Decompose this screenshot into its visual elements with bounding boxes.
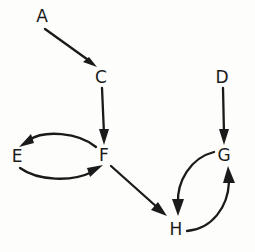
edge-g-to-h-arrowhead — [172, 199, 184, 216]
edge-e-to-f — [20, 165, 103, 179]
edge-d-to-g — [219, 88, 229, 145]
edge-c-to-f-line — [102, 88, 104, 134]
edge-g-to-h-curve — [178, 152, 214, 203]
graph-svg: A C D E F G H — [0, 0, 255, 252]
edge-f-to-h — [111, 166, 167, 216]
node-label-h: H — [170, 219, 183, 239]
edge-h-to-g-curve — [187, 182, 229, 231]
edge-h-to-g-arrowhead — [223, 166, 235, 183]
node-label-e: E — [12, 146, 23, 166]
node-label-f: F — [99, 145, 109, 165]
node-label-a: A — [36, 6, 48, 26]
edge-g-to-h — [172, 152, 214, 216]
node-label-c: C — [95, 67, 107, 87]
edge-a-to-c — [45, 29, 97, 67]
diagram-canvas: A C D E F G H — [0, 0, 255, 252]
edge-e-to-f-arrowhead — [87, 165, 103, 177]
edge-f-to-e-curve — [29, 134, 96, 147]
edge-c-to-f — [99, 88, 109, 145]
edge-a-to-c-line — [45, 29, 91, 62]
edge-f-to-e — [19, 134, 96, 147]
edge-d-to-g-line — [223, 88, 224, 134]
edge-c-to-f-arrowhead — [99, 129, 109, 145]
edge-d-to-g-arrowhead — [219, 129, 229, 145]
node-label-d: D — [215, 67, 228, 87]
edge-f-to-h-line — [111, 166, 158, 208]
edge-h-to-g — [187, 166, 235, 231]
node-label-g: G — [217, 145, 230, 165]
edge-e-to-f-curve — [20, 168, 92, 179]
